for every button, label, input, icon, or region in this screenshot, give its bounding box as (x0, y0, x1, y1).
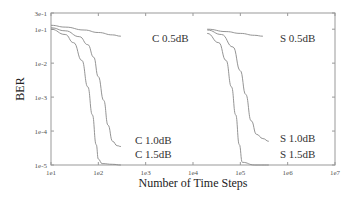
x-tick-label: 1e2 (93, 169, 104, 177)
series-label-s-1-5db: S 1.5dB (280, 148, 315, 160)
y-tick-label: 1e-2 (35, 60, 48, 68)
y-tick-label: 1e-5 (35, 162, 48, 170)
series-label-c-1-0db: C 1.0dB (135, 134, 172, 146)
y-tick-label: 1e-3 (35, 94, 48, 102)
x-axis-title: Number of Time Steps (138, 176, 247, 190)
x-tick-label: 1e6 (283, 169, 294, 177)
series-label-c-0-5db: C 0.5dB (152, 32, 189, 44)
x-tick-label: 1e7 (330, 169, 341, 177)
y-tick-label: 3e-1 (35, 10, 48, 18)
x-tick-label: 1e1 (46, 169, 57, 177)
ber-chart: 1e11e21e31e41e51e61e73e-11e-11e-21e-31e-… (0, 0, 351, 200)
y-axis-title: BER (13, 77, 27, 100)
series-label-s-0-5db: S 0.5dB (280, 32, 315, 44)
series-line-s-1-0db (207, 30, 269, 141)
series-line-c-1-0db (51, 28, 121, 147)
series-labels: C 0.5dBC 1.0dBC 1.5dBS 0.5dBS 1.0dBS 1.5… (135, 32, 315, 160)
series-line-s-1-5db (207, 33, 269, 165)
y-tick-label: 1e-4 (35, 128, 48, 136)
series-label-c-1-5db: C 1.5dB (135, 148, 172, 160)
series-label-s-1-0db: S 1.0dB (280, 132, 315, 144)
y-tick-label: 1e-1 (35, 26, 48, 34)
series-line-c-1-5db (51, 29, 121, 165)
